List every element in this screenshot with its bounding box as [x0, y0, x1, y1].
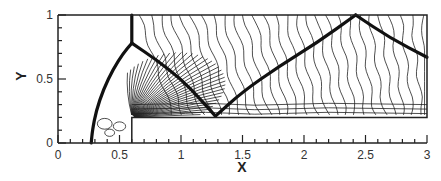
- reflected-shock-2: [215, 15, 355, 116]
- flow-contour: [350, 15, 364, 115]
- x-axis-title: X: [237, 159, 247, 175]
- contour-chart: 00.511.522.5300.51 X Y: [0, 0, 441, 181]
- flow-contour: [412, 15, 423, 115]
- plot-frame: [58, 15, 427, 143]
- flow-contour: [359, 15, 376, 115]
- x-tick-label: 1: [178, 148, 185, 162]
- y-tick-label: 1: [46, 8, 53, 22]
- flow-contour: [252, 15, 280, 115]
- flow-contour: [338, 15, 354, 115]
- swirl-contour: [113, 122, 125, 131]
- flow-contour: [306, 15, 330, 115]
- contour-lines: [97, 15, 427, 136]
- flow-contour: [234, 15, 262, 115]
- y-tick-label: 0: [46, 136, 53, 150]
- x-tick-label: 0.5: [111, 148, 128, 162]
- swirl-contour: [97, 118, 112, 129]
- y-axis-title: Y: [13, 71, 29, 81]
- x-tick-label: 2: [301, 148, 308, 162]
- x-tick-label: 0: [55, 148, 62, 162]
- x-tick-label: 2.5: [357, 148, 374, 162]
- bow-shock: [91, 43, 132, 143]
- y-tick-label: 0.5: [36, 72, 53, 86]
- x-tick-label: 3: [424, 148, 431, 162]
- swirl-contour: [105, 129, 115, 136]
